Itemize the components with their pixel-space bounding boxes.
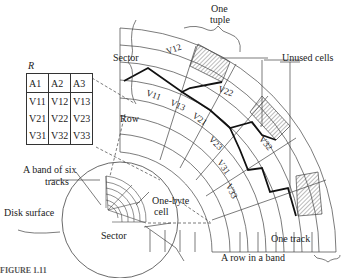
table-cell: V21 <box>27 110 49 127</box>
table-cell: V32 <box>49 127 71 145</box>
row-label: Row <box>120 113 139 124</box>
table-header-row: A1 A2 A3 <box>27 74 93 93</box>
one-tuple-label-1: One <box>211 3 228 14</box>
one-byte-label-1: One-byte <box>152 195 189 206</box>
figure-caption: FIGURE 1.11 <box>0 266 47 275</box>
table-row: V11 V12 V13 <box>27 93 93 111</box>
row-in-band-label: A row in a band <box>221 252 285 263</box>
one-byte-label-2: cell <box>154 206 168 217</box>
table-row: V31 V32 V33 <box>27 127 93 145</box>
table-cell: V31 <box>27 127 49 145</box>
one-track-label: One track <box>271 233 310 244</box>
unused-cells <box>190 44 322 216</box>
one-tuple-brace <box>184 26 240 52</box>
one-track-brace <box>314 255 340 262</box>
table-cell: V33 <box>71 127 93 145</box>
table-cell: V11 <box>27 93 49 111</box>
unused-cells-label: Unused cells <box>282 52 333 63</box>
sector-label-bottom: Sector <box>101 230 127 241</box>
col-header-a1: A1 <box>27 74 49 93</box>
col-header-a3: A3 <box>71 74 93 93</box>
table-cell: V23 <box>71 110 93 127</box>
col-header-a2: A2 <box>49 74 71 93</box>
band-label-1: A band of six <box>23 164 77 175</box>
table-cell: V12 <box>49 93 71 111</box>
one-tuple-label-2: tuple <box>210 14 230 25</box>
relation-name: R <box>28 60 34 71</box>
relation-table: A1 A2 A3 V11 V12 V13 V21 V22 V23 V31 V32… <box>26 73 93 145</box>
table-cell: V22 <box>49 110 71 127</box>
sector-label-top: Sector <box>113 52 139 63</box>
small-sector-fan <box>106 176 146 223</box>
band-label-2: tracks <box>45 176 69 187</box>
table-row: V21 V22 V23 <box>27 110 93 127</box>
disk-surface-label: Disk surface <box>4 207 54 218</box>
table-cell: V13 <box>71 93 93 111</box>
